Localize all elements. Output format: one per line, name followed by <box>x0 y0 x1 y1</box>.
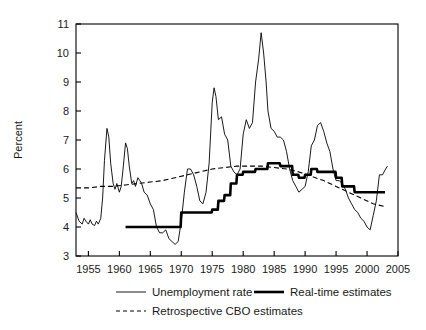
legend-label: Retrospective CBO estimates <box>152 305 303 317</box>
y-axis-tick-labels: 34567891011 <box>57 18 69 262</box>
x-tick-label: 1975 <box>200 263 224 275</box>
y-tick-label: 8 <box>63 105 69 117</box>
series-line <box>76 33 387 245</box>
x-tick-label: 1960 <box>107 263 131 275</box>
y-tick-label: 7 <box>63 134 69 146</box>
x-tick-label: 1990 <box>293 263 317 275</box>
x-tick-label: 2000 <box>355 263 379 275</box>
x-tick-label: 1965 <box>138 263 162 275</box>
chart-figure: 34567891011 1955196019651970197519801985… <box>0 0 426 330</box>
legend-label: Real-time estimates <box>290 286 392 298</box>
y-tick-label: 11 <box>58 18 69 30</box>
y-tick-label: 10 <box>57 47 69 59</box>
x-tick-label: 1980 <box>231 263 255 275</box>
x-axis-tick-labels: 1955196019651970197519801985199019952000… <box>76 263 410 275</box>
x-axis-ticks <box>88 251 398 256</box>
plot-area-frame <box>76 24 398 256</box>
y-axis-ticks <box>76 24 81 256</box>
y-tick-label: 4 <box>63 221 69 233</box>
x-tick-label: 1955 <box>76 263 100 275</box>
legend-label: Unemployment rate <box>152 286 252 298</box>
y-tick-label: 3 <box>63 250 69 262</box>
y-axis-label: Percent <box>12 121 24 159</box>
chart-legend: Unemployment rateReal-time estimatesRetr… <box>116 286 392 317</box>
y-tick-label: 9 <box>63 76 69 88</box>
y-tick-label: 6 <box>63 163 69 175</box>
x-tick-label: 1995 <box>324 263 348 275</box>
x-tick-label: 2005 <box>386 263 410 275</box>
x-tick-label: 1985 <box>262 263 286 275</box>
x-tick-label: 1970 <box>169 263 193 275</box>
y-tick-label: 5 <box>63 192 69 204</box>
data-series-layer <box>76 33 387 245</box>
series-line <box>126 163 385 227</box>
plot-border <box>76 24 398 256</box>
